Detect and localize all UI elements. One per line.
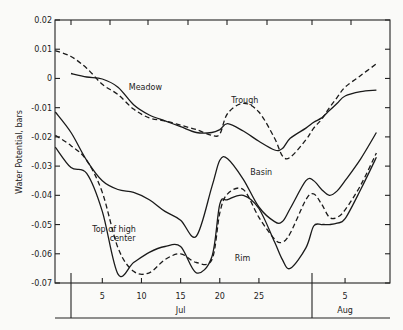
plot-frame: [55, 20, 390, 283]
y-tick-label: 0.01: [34, 45, 52, 54]
water-potential-chart: 0.020.010-0.01-0.02-0.03-0.04-0.05-0.06-…: [0, 0, 403, 330]
chart-annotations: MeadowTroughBasinTop of highcenterRim: [91, 83, 272, 263]
series-trough: [55, 51, 376, 159]
annotation-trough: Trough: [230, 96, 258, 105]
y-tick-label: -0.01: [31, 104, 52, 113]
x-tick-label: 10: [136, 292, 146, 301]
y-tick-label: -0.06: [31, 250, 52, 259]
y-tick-label: -0.02: [31, 133, 52, 142]
annotation-top-of-high: Top of high: [91, 225, 136, 234]
x-tick-label: 5: [343, 292, 348, 301]
annotation-meadow: Meadow: [129, 83, 163, 92]
series-meadow: [71, 74, 376, 151]
month-label: Aug: [337, 306, 353, 315]
chart-axes: 0.020.010-0.01-0.02-0.03-0.04-0.05-0.06-…: [31, 16, 390, 318]
chart-lines: [55, 51, 376, 277]
month-label: Jul: [175, 306, 186, 315]
y-tick-label: -0.05: [31, 221, 52, 230]
x-tick-label: 15: [176, 292, 186, 301]
annotation-rim: Rim: [235, 254, 251, 263]
y-tick-label: -0.07: [31, 279, 52, 288]
y-tick-label: 0.02: [34, 16, 52, 25]
x-tick-label: 5: [100, 292, 105, 301]
annotation-basin: Basin: [250, 168, 272, 177]
series-top-of-high-center-solid: [55, 147, 376, 277]
y-tick-label: -0.03: [31, 162, 52, 171]
series-top-of-high-center: [55, 135, 376, 274]
x-tick-label: 25: [254, 292, 264, 301]
annotation-center: center: [110, 234, 136, 243]
x-tick-label: 20: [215, 292, 225, 301]
y-axis-label: Water Potential, bars: [15, 110, 24, 194]
y-tick-label: 0: [47, 74, 52, 83]
series-basin: [55, 112, 376, 237]
y-tick-label: -0.04: [31, 191, 52, 200]
